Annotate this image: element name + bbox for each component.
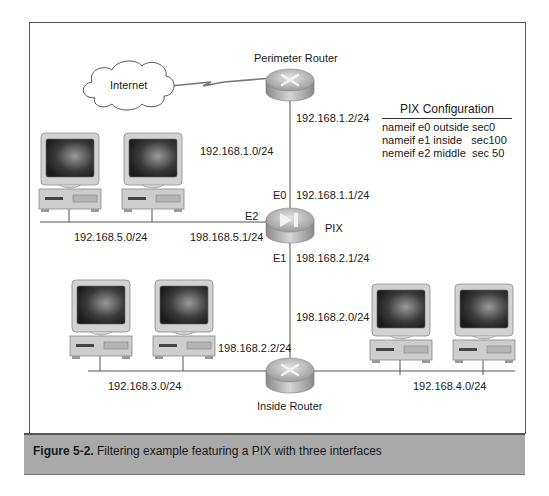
perimeter-router-icon <box>266 69 314 101</box>
pix-e2-ip: 198.168.5.1/24 <box>190 231 263 243</box>
pix-label: PIX <box>325 222 343 234</box>
perimeter-router-ip: 192.168.1.2/24 <box>296 112 369 124</box>
left-lan-label: 192.168.3.0/24 <box>108 380 181 392</box>
pc-icon-middle-1 <box>39 133 101 212</box>
pc-icon-left-lan-2 <box>153 280 215 359</box>
pc-icon-right-lan-1 <box>370 284 432 363</box>
interface-e2-label: E2 <box>245 210 258 222</box>
pix-config-line: nameif e0 outside sec0 <box>382 121 512 134</box>
interface-e0-label: E0 <box>273 189 286 201</box>
pc-icon-right-lan-2 <box>453 284 515 363</box>
middle-network-label: 192.168.5.0/24 <box>74 231 147 243</box>
internet-label: Internet <box>110 79 147 91</box>
figure-caption-text: Filtering example featuring a PIX with t… <box>97 444 382 458</box>
inside-router-icon <box>266 358 314 393</box>
perimeter-router-label: Perimeter Router <box>254 52 338 64</box>
inside-transit-network-label: 198.168.2.0/24 <box>296 311 369 323</box>
right-lan-label: 192.168.4.0/24 <box>413 380 486 392</box>
outside-network-label: 192.168.1.0/24 <box>200 145 273 157</box>
wan-link <box>170 78 273 86</box>
inside-router-label: Inside Router <box>257 400 322 412</box>
pc-icon-middle-2 <box>122 133 184 212</box>
pix-configuration-title: PIX Configuration <box>382 103 512 119</box>
figure-number: Figure 5-2. <box>33 444 94 458</box>
pix-firewall-icon <box>266 208 314 243</box>
pix-configuration-panel: PIX Configuration nameif e0 outside sec0… <box>382 103 512 160</box>
figure-caption: Figure 5-2. Filtering example featuring … <box>24 433 525 475</box>
network-diagram <box>0 0 549 496</box>
interface-e1-label: E1 <box>273 252 286 264</box>
pix-config-line: nameif e1 inside sec100 <box>382 134 512 147</box>
pc-icon-left-lan-1 <box>70 280 132 359</box>
inside-router-ip: 198.168.2.2/24 <box>218 342 291 354</box>
pix-config-line: nemeif e2 middle sec 50 <box>382 147 512 160</box>
pix-e1-ip: 198.168.2.1/24 <box>296 252 369 264</box>
pix-e0-ip: 192.168.1.1/24 <box>296 189 369 201</box>
